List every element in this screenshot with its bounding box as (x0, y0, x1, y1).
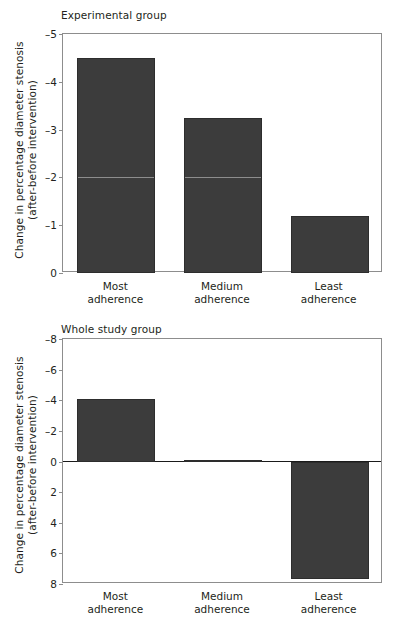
panel-title: Whole study group (61, 323, 162, 335)
y-axis-tick-label: 0 (50, 267, 57, 279)
y-axis-tick (59, 177, 63, 178)
y-axis-title-line1: Change in percentage diameter stenosis (13, 41, 25, 258)
plot-area: –8–6–4–202468 (62, 338, 382, 583)
bar-segment-divider (185, 177, 261, 178)
chart-panel-whole-study-group: Whole study group Change in percentage d… (0, 318, 395, 631)
y-axis-tick-label: –3 (45, 124, 57, 136)
y-axis-tick (59, 370, 63, 371)
category-label-line1: Most (88, 590, 144, 603)
y-axis-title-line2: (after-before intervention) (26, 30, 39, 270)
y-axis-tick-label: –6 (45, 364, 57, 376)
y-axis-tick (59, 82, 63, 83)
category-label-line1: Least (301, 280, 357, 293)
x-axis-category-label: Mostadherence (88, 280, 144, 305)
category-label-line2: adherence (88, 293, 144, 306)
bar (77, 58, 155, 273)
y-axis-tick-label: –2 (45, 425, 57, 437)
bar (77, 399, 155, 462)
panel-title: Experimental group (61, 9, 167, 21)
y-axis-tick-label: –8 (45, 333, 57, 345)
category-label-line2: adherence (194, 293, 250, 306)
y-axis-tick (59, 225, 63, 226)
y-axis-tick-label: –2 (45, 171, 57, 183)
category-label-line1: Most (88, 280, 144, 293)
y-axis-title-line1: Change in percentage diameter stenosis (13, 356, 25, 573)
y-axis-title: Change in percentage diameter stenosis (… (13, 340, 38, 590)
category-label-line2: adherence (88, 603, 144, 616)
bar-segment-divider (78, 177, 154, 178)
figure-root: Experimental group Change in percentage … (0, 0, 395, 631)
y-axis-tick (59, 431, 63, 432)
y-axis-tick (59, 492, 63, 493)
x-axis-category-label: Leastadherence (301, 280, 357, 305)
y-axis-tick-label: 6 (50, 547, 57, 559)
y-axis-tick (59, 400, 63, 401)
bar (291, 216, 369, 273)
y-axis-tick (59, 339, 63, 340)
bar (184, 118, 262, 273)
category-label-line1: Medium (194, 590, 250, 603)
chart-panel-experimental-group: Experimental group Change in percentage … (0, 0, 395, 318)
plot-area: –5–4–3–2–10 (62, 33, 382, 272)
x-axis-category-label: Mediumadherence (194, 590, 250, 615)
y-axis-tick-label: –4 (45, 76, 57, 88)
y-axis-tick (59, 523, 63, 524)
x-axis-category-label: Mostadherence (88, 590, 144, 615)
y-axis-tick-label: 0 (50, 456, 57, 468)
category-label-line2: adherence (301, 293, 357, 306)
y-axis-title-line2: (after-before intervention) (26, 340, 39, 590)
y-axis-tick-label: 4 (50, 517, 57, 529)
bar (184, 460, 262, 462)
y-axis-tick (59, 34, 63, 35)
bar (291, 462, 369, 580)
category-label-line1: Least (301, 590, 357, 603)
y-axis-title: Change in percentage diameter stenosis (… (13, 30, 38, 270)
category-label-line2: adherence (194, 603, 250, 616)
y-axis-tick-label: –5 (45, 28, 57, 40)
x-axis-category-label: Leastadherence (301, 590, 357, 615)
y-axis-tick (59, 273, 63, 274)
x-axis-category-label: Mediumadherence (194, 280, 250, 305)
category-label-line2: adherence (301, 603, 357, 616)
category-label-line1: Medium (194, 280, 250, 293)
y-axis-tick (59, 584, 63, 585)
y-axis-tick-label: 2 (50, 486, 57, 498)
y-axis-tick-label: 8 (50, 578, 57, 590)
y-axis-tick-label: –4 (45, 394, 57, 406)
y-axis-tick-label: –1 (45, 219, 57, 231)
y-axis-tick (59, 553, 63, 554)
y-axis-tick (59, 130, 63, 131)
